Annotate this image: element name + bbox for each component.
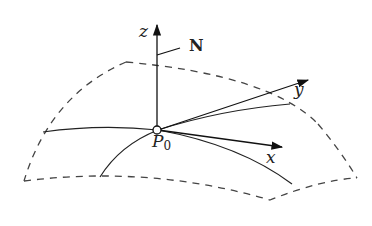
- y-axis-label: y: [293, 79, 304, 99]
- curve-left: [43, 127, 158, 132]
- point-p0-label: P0: [151, 131, 171, 153]
- boundary-top-edge: [126, 62, 318, 124]
- surface-boundary: [24, 62, 357, 200]
- axes: [157, 25, 308, 147]
- x-axis: [158, 130, 282, 147]
- surface-normal-diagram: z N y x P0: [0, 0, 372, 226]
- normal-tick: [157, 48, 180, 55]
- curve-lower-left: [100, 130, 158, 177]
- x-axis-label: x: [266, 147, 276, 167]
- point-p0-main: P: [151, 131, 164, 151]
- z-axis-label: z: [138, 21, 149, 41]
- normal-label: N: [189, 36, 204, 55]
- point-p0-subscript: 0: [163, 139, 171, 153]
- boundary-right-edge: [318, 124, 357, 178]
- boundary-bottom-edge: [24, 176, 357, 200]
